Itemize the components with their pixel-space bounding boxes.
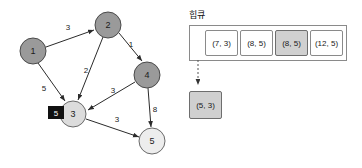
edge-weight-1-2: 3 bbox=[66, 23, 71, 32]
screenshot-root: 3 5 2 1 3 8 3 1 2 4 bbox=[0, 0, 362, 168]
node-label-5: 5 bbox=[149, 136, 154, 146]
node-label-4: 4 bbox=[144, 70, 149, 80]
edge-weight-1-3: 5 bbox=[42, 84, 47, 93]
edge-3-5 bbox=[86, 119, 139, 137]
node-label-1: 1 bbox=[30, 46, 35, 56]
node-label-2: 2 bbox=[105, 20, 110, 30]
edge-1-2 bbox=[46, 30, 94, 47]
queue-item[interactable]: (12, 5) bbox=[310, 30, 343, 56]
distance-badge-node-3: 5 bbox=[48, 106, 64, 119]
queue-container: (7, 3) (8, 5) (8, 5) (12, 5) bbox=[189, 25, 347, 61]
graph-canvas: 3 5 2 1 3 8 3 1 2 4 bbox=[0, 0, 181, 168]
node-label-3: 3 bbox=[70, 109, 75, 119]
graph-edges bbox=[38, 30, 151, 137]
popped-item[interactable]: (5, 3) bbox=[189, 91, 222, 119]
queue-item[interactable]: (8, 5) bbox=[240, 30, 273, 56]
edge-4-5 bbox=[148, 88, 151, 127]
graph-node-4[interactable]: 4 bbox=[134, 62, 160, 88]
distance-badge-value: 5 bbox=[54, 109, 59, 118]
edge-weight-4-5: 8 bbox=[153, 105, 158, 114]
edge-weight-3-5: 3 bbox=[115, 115, 120, 124]
edge-2-3 bbox=[78, 37, 103, 100]
graph-node-1[interactable]: 1 bbox=[20, 38, 46, 64]
queue-item[interactable]: (7, 3) bbox=[205, 30, 238, 56]
edge-weight-4-3: 3 bbox=[111, 86, 116, 95]
queue-panel: 힙큐 (7, 3) (8, 5) (8, 5) (12, 5) (5, 3) bbox=[181, 0, 362, 168]
graph-panel: 3 5 2 1 3 8 3 1 2 4 bbox=[0, 0, 181, 168]
graph-node-2[interactable]: 2 bbox=[95, 12, 121, 38]
queue-item[interactable]: (8, 5) bbox=[275, 30, 308, 56]
edge-weight-2-4: 1 bbox=[129, 40, 134, 49]
edge-weight-2-3: 2 bbox=[84, 66, 89, 75]
queue-title: 힙큐 bbox=[189, 8, 205, 21]
edge-1-3 bbox=[38, 63, 65, 101]
graph-node-5[interactable]: 5 bbox=[139, 128, 165, 154]
